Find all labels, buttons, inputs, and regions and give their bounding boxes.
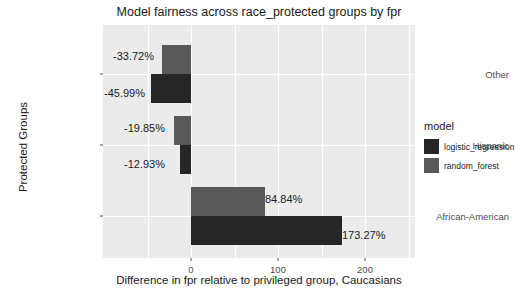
legend-swatch-icon-random-forest bbox=[424, 158, 439, 173]
y-tick-label-other: Other bbox=[411, 69, 515, 80]
bar-value-african-american-logistic-regression: 173.27% bbox=[342, 230, 385, 241]
bar-other-random-forest bbox=[162, 45, 191, 74]
y-tick-label-african-american: African-American bbox=[411, 211, 515, 222]
bar-hispanic-logistic-regression bbox=[180, 145, 191, 174]
x-tick-mark-100 bbox=[278, 258, 279, 261]
bar-african-american-logistic-regression bbox=[191, 216, 342, 245]
bar-value-hispanic-random-forest: -19.85% bbox=[124, 123, 165, 134]
bar-value-hispanic-logistic-regression: -12.93% bbox=[124, 159, 165, 170]
x-tick-mark-0 bbox=[191, 258, 192, 261]
chart-figure: Model fairness across race_protected gro… bbox=[0, 0, 515, 292]
legend-item-random-forest[interactable]: random_forest bbox=[424, 158, 514, 173]
legend-title: model bbox=[424, 120, 514, 132]
chart-title: Model fairness across race_protected gro… bbox=[103, 5, 415, 19]
bar-value-other-random-forest: -33.72% bbox=[113, 51, 154, 62]
gridline-x-200 bbox=[365, 25, 366, 258]
y-axis-title: Protected Groups bbox=[17, 77, 29, 217]
x-tick-mark-200 bbox=[365, 258, 366, 261]
legend-label-logistic-regression: logistic_regression bbox=[444, 142, 514, 152]
gridline-y-hispanic bbox=[103, 145, 415, 146]
bar-hispanic-random-forest bbox=[174, 116, 191, 145]
bar-value-other-logistic-regression: -45.99% bbox=[104, 88, 145, 99]
legend-item-logistic-regression[interactable]: logistic_regression bbox=[424, 139, 514, 154]
bar-african-american-random-forest bbox=[191, 187, 265, 216]
gridline-x-minor-250 bbox=[409, 25, 410, 258]
gridline-y-other bbox=[103, 74, 415, 75]
legend-swatch-icon-logistic-regression bbox=[424, 139, 439, 154]
legend-label-random-forest: random_forest bbox=[444, 161, 499, 171]
bar-other-logistic-regression bbox=[151, 74, 191, 103]
x-axis-title: Difference in fpr relative to privileged… bbox=[103, 274, 415, 286]
bar-value-african-american-random-forest: 84.84% bbox=[265, 194, 302, 205]
legend: model logistic_regression random_forest bbox=[424, 120, 514, 177]
